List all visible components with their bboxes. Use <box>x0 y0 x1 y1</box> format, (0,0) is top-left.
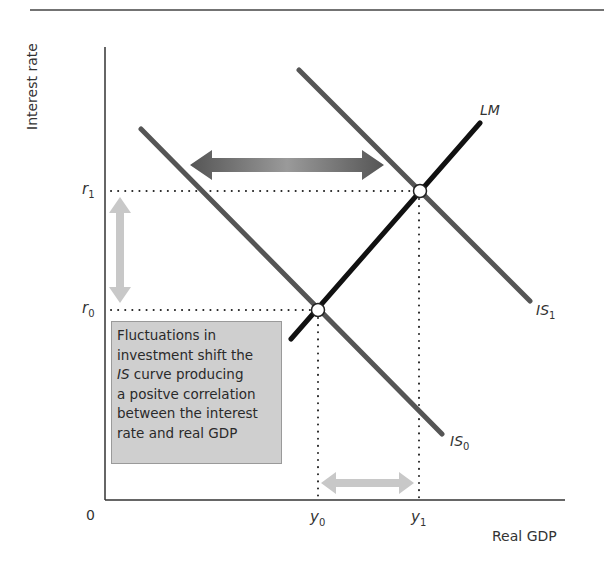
interest-rate-change-arrow <box>109 197 131 303</box>
is0-sub: 0 <box>463 441 469 452</box>
r1-sub: 1 <box>88 189 94 200</box>
y1-base: y <box>411 508 420 526</box>
is-shift-arrow <box>190 150 384 180</box>
equilibrium-point-1 <box>414 185 427 198</box>
note-line-5: between the interest <box>117 404 276 424</box>
note-line-3: IS curve producing <box>117 365 276 385</box>
is1-base: IS <box>536 302 549 318</box>
x-axis-label: Real GDP <box>492 528 557 544</box>
is0-base: IS <box>450 433 463 449</box>
y-axis-label: Interest rate <box>24 110 44 130</box>
is1-label: IS1 <box>536 302 555 321</box>
lm-label: LM <box>480 102 500 118</box>
note-is-term: IS <box>117 366 130 382</box>
note-line-6: rate and real GDP <box>117 424 276 444</box>
equilibrium-point-0 <box>312 304 325 317</box>
is0-label: IS0 <box>450 433 469 452</box>
annotation-box: Fluctuations in investment shift the IS … <box>111 321 282 464</box>
note-line-2: investment shift the <box>117 346 276 366</box>
r0-sub: 0 <box>88 308 94 319</box>
note-line-3-rest: curve producing <box>130 366 244 382</box>
r0-label: r0 <box>82 299 95 319</box>
r1-label: r1 <box>82 180 95 200</box>
gdp-change-arrow <box>321 472 414 494</box>
y0-base: y <box>310 508 319 526</box>
y1-label: y1 <box>411 508 426 528</box>
is-lm-diagram <box>0 0 604 565</box>
is1-sub: 1 <box>549 310 555 321</box>
y0-label: y0 <box>310 508 325 528</box>
y0-sub: 0 <box>319 517 325 528</box>
origin-label: 0 <box>86 507 95 523</box>
note-line-4: a positve correlation <box>117 385 276 405</box>
note-line-1: Fluctuations in <box>117 326 276 346</box>
y1-sub: 1 <box>420 517 426 528</box>
